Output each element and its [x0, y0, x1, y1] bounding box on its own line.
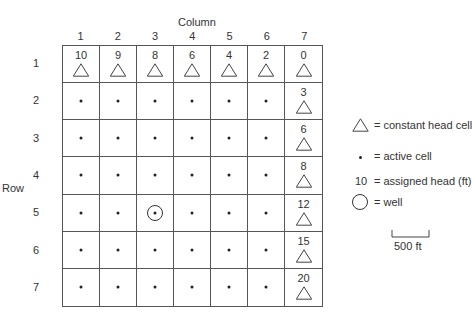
grid-cell-r5-c4 — [174, 195, 211, 232]
grid-cell-r1-c5: 4 — [211, 46, 248, 83]
row-label: 3 — [30, 132, 42, 144]
grid-cell-r6-c3 — [137, 232, 174, 269]
row-label: 7 — [30, 281, 42, 293]
active-cell-dot-icon — [80, 174, 83, 177]
active-cell-dot-icon — [80, 286, 83, 289]
grid-cell-r5-c3 — [137, 195, 174, 232]
grid-cell-r3-c3 — [137, 120, 174, 157]
assigned-head-value: 12 — [285, 198, 322, 210]
grid-cell-r7-c2 — [100, 269, 137, 306]
grid-cell-r2-c6 — [248, 83, 285, 120]
grid-cell-r6-c7: 15 — [285, 232, 322, 269]
constant-head-triangle-icon — [352, 118, 369, 132]
grid-cell-r1-c2: 9 — [100, 46, 137, 83]
grid-cell-r4-c1 — [63, 157, 100, 194]
grid-cell-r2-c5 — [211, 83, 248, 120]
grid-cell-r6-c6 — [248, 232, 285, 269]
grid-cell-r1-c3: 8 — [137, 46, 174, 83]
grid-cell-r7-c5 — [211, 269, 248, 306]
grid-cell-r1-c4: 6 — [174, 46, 211, 83]
active-cell-dot-icon — [191, 211, 194, 214]
column-label: 5 — [211, 30, 248, 42]
active-cell-dot-icon — [154, 174, 157, 177]
grid-cell-r4-c3 — [137, 157, 174, 194]
active-cell-dot-icon — [80, 248, 83, 251]
constant-head-triangle-icon — [295, 174, 312, 188]
active-cell-dot-icon — [117, 211, 120, 214]
grid-cell-r7-c7: 20 — [285, 269, 322, 306]
active-cell-dot-icon — [191, 100, 194, 103]
active-cell-dot-icon — [117, 248, 120, 251]
legend-assigned-head-sample: 10 — [355, 175, 367, 187]
grid-cell-r5-c6 — [248, 195, 285, 232]
grid-cell-r1-c7: 0 — [285, 46, 322, 83]
grid-cell-r2-c3 — [137, 83, 174, 120]
assigned-head-value: 0 — [285, 49, 322, 61]
grid-cell-r7-c1 — [63, 269, 100, 306]
active-cell-dot-icon — [191, 248, 194, 251]
active-cell-dot-icon — [228, 211, 231, 214]
assigned-head-value: 15 — [285, 235, 322, 247]
column-axis-title: Column — [178, 16, 216, 28]
row-label: 6 — [30, 244, 42, 256]
assigned-head-value: 2 — [248, 49, 284, 61]
constant-head-triangle-icon — [147, 63, 164, 77]
constant-head-triangle-icon — [258, 63, 275, 77]
scale-label: 500 ft — [394, 240, 422, 252]
active-cell-dot-icon — [117, 100, 120, 103]
assigned-head-value: 8 — [137, 49, 173, 61]
legend-active-cell: = active cell — [374, 150, 432, 162]
grid-cell-r7-c6 — [248, 269, 285, 306]
column-label: 4 — [174, 30, 211, 42]
active-cell-dot-icon — [154, 100, 157, 103]
grid-cell-r7-c4 — [174, 269, 211, 306]
assigned-head-value: 9 — [100, 49, 136, 61]
grid-cell-r4-c4 — [174, 157, 211, 194]
active-cell-dot-icon — [265, 248, 268, 251]
grid-cell-r6-c1 — [63, 232, 100, 269]
grid-cell-r3-c2 — [100, 120, 137, 157]
model-grid: 10986420368121520 — [62, 45, 323, 307]
active-cell-dot-icon — [228, 174, 231, 177]
grid-cell-r5-c5 — [211, 195, 248, 232]
grid-cell-r4-c7: 8 — [285, 157, 322, 194]
active-cell-dot-icon — [359, 156, 362, 159]
constant-head-triangle-icon — [184, 63, 201, 77]
constant-head-triangle-icon — [295, 286, 312, 300]
active-cell-dot-icon — [117, 174, 120, 177]
active-cell-dot-icon — [228, 286, 231, 289]
grid-cell-r7-c3 — [137, 269, 174, 306]
active-cell-dot-icon — [265, 211, 268, 214]
constant-head-triangle-icon — [73, 63, 90, 77]
constant-head-triangle-icon — [295, 249, 312, 263]
grid-cell-r5-c7: 12 — [285, 195, 322, 232]
grid-cell-r2-c7: 3 — [285, 83, 322, 120]
active-cell-dot-icon — [80, 211, 83, 214]
constant-head-triangle-icon — [295, 212, 312, 226]
grid-cell-r4-c5 — [211, 157, 248, 194]
grid-cell-r3-c7: 6 — [285, 120, 322, 157]
grid-cell-r6-c2 — [100, 232, 137, 269]
column-label: 7 — [286, 30, 323, 42]
well-circle-icon — [147, 205, 163, 221]
active-cell-dot-icon — [80, 137, 83, 140]
column-label: 3 — [137, 30, 174, 42]
active-cell-dot-icon — [191, 174, 194, 177]
active-cell-dot-icon — [228, 137, 231, 140]
active-cell-dot-icon — [265, 286, 268, 289]
grid-cell-r6-c5 — [211, 232, 248, 269]
assigned-head-value: 6 — [285, 123, 322, 135]
grid-cell-r3-c6 — [248, 120, 285, 157]
constant-head-triangle-icon — [110, 63, 127, 77]
grid-cell-r1-c1: 10 — [63, 46, 100, 83]
active-cell-dot-icon — [265, 100, 268, 103]
grid-cell-r3-c4 — [174, 120, 211, 157]
legend-assigned-head: = assigned head (ft) — [374, 175, 472, 187]
grid-cell-r3-c1 — [63, 120, 100, 157]
active-cell-dot-icon — [228, 100, 231, 103]
row-axis-title: Row — [2, 182, 24, 194]
active-cell-dot-icon — [117, 286, 120, 289]
column-label: 1 — [62, 30, 99, 42]
active-cell-dot-icon — [117, 137, 120, 140]
grid-cell-r5-c1 — [63, 195, 100, 232]
